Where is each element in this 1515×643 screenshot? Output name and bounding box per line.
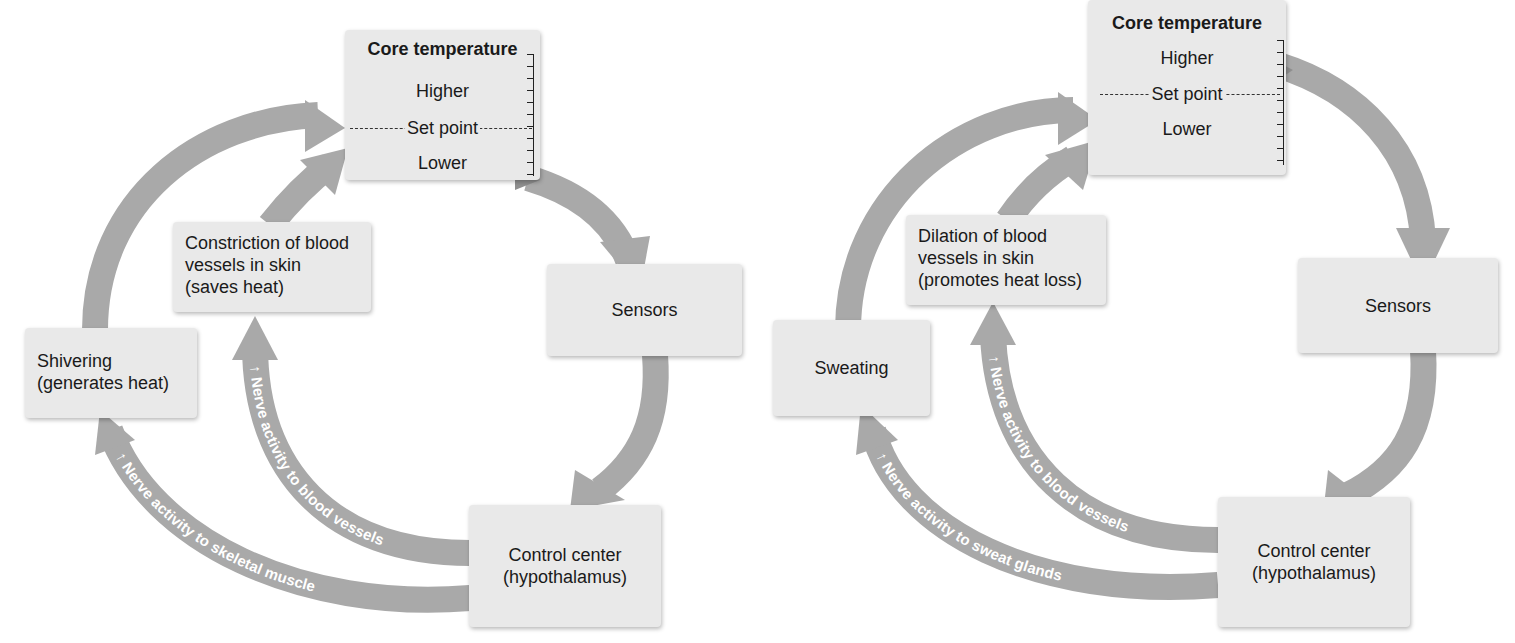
effector-vessels-box: Dilation of blood vessels in skin (promo…: [906, 215, 1106, 305]
diagram-cold-response: ↑ Nerve activity to blood vessels ↑ Nerv…: [0, 0, 757, 643]
effector-vessels-line-3: (promotes heat loss): [918, 269, 1094, 291]
effector-vessels-line-3: (saves heat): [185, 276, 359, 298]
sensors-label: Sensors: [611, 299, 677, 321]
core-higher-label: Higher: [1088, 47, 1286, 69]
set-point-text: Set point: [1149, 84, 1224, 104]
core-temperature-box: Core temperature Higher Set point Lower: [1088, 0, 1286, 175]
control-center-box: Control center (hypothalamus): [1218, 497, 1410, 627]
arrowhead-icon: [305, 100, 345, 152]
effector-vessels-line-2: vessels in skin: [918, 247, 1094, 269]
set-point-text: Set point: [405, 118, 480, 138]
control-center-box: Control center (hypothalamus): [469, 505, 661, 627]
arrowhead-icon: [232, 316, 278, 360]
core-lower-label: Lower: [1088, 118, 1286, 140]
shivering-box: Shivering (generates heat): [25, 328, 197, 418]
control-center-sub-label: (hypothalamus): [1252, 562, 1376, 584]
sensors-box: Sensors: [1298, 258, 1498, 353]
control-center-label: Control center: [508, 544, 621, 566]
arrowhead-icon: [970, 302, 1016, 345]
effector-vessels-line-2: vessels in skin: [185, 254, 359, 276]
core-temperature-title: Core temperature: [1088, 12, 1286, 34]
effector-vessels-line-1: Constriction of blood: [185, 232, 359, 254]
sweating-box: Sweating: [773, 320, 930, 416]
sensors-label: Sensors: [1365, 295, 1431, 317]
control-center-label: Control center: [1257, 540, 1370, 562]
control-center-sub-label: (hypothalamus): [503, 566, 627, 588]
temperature-scale: [525, 54, 534, 176]
core-temperature-title: Core temperature: [345, 38, 540, 60]
sensors-box: Sensors: [547, 264, 742, 356]
core-higher-label: Higher: [345, 80, 540, 102]
diagram-heat-response: ↑ Nerve activity to blood vessels ↑ Nerv…: [758, 0, 1515, 643]
core-lower-label: Lower: [345, 152, 540, 174]
shivering-sub-label: (generates heat): [37, 372, 185, 394]
sweating-label: Sweating: [814, 357, 888, 379]
shivering-label: Shivering: [37, 350, 185, 372]
core-temperature-box: Core temperature Higher Set point Lower: [345, 30, 540, 180]
effector-vessels-line-1: Dilation of blood: [918, 225, 1094, 247]
effector-vessels-box: Constriction of blood vessels in skin (s…: [173, 222, 371, 312]
temperature-scale: [1275, 40, 1284, 165]
